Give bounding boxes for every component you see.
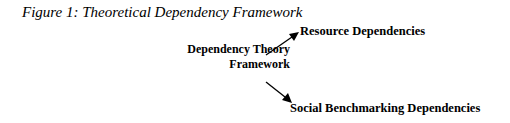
arrow-up-right-icon xyxy=(266,32,299,55)
arrow-down-right-icon xyxy=(266,82,292,103)
arrows xyxy=(0,0,510,123)
